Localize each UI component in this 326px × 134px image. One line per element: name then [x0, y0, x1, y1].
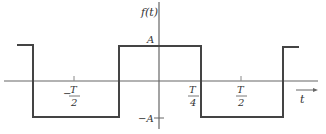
svg-text:2: 2 — [70, 97, 77, 108]
quarter-period-label: T 4 — [188, 84, 199, 108]
arrow-head-icon — [313, 88, 318, 92]
amplitude-high-label: A — [146, 34, 154, 45]
square-wave-diagram: f(t) A −A t − T 2 T 4 T 2 — [0, 0, 326, 134]
amplitude-low-label: −A — [138, 113, 154, 124]
svg-text:T: T — [189, 84, 197, 95]
svg-text:T: T — [70, 84, 78, 95]
half-period-label: T 2 — [236, 84, 247, 108]
neg-half-period-label: − T 2 — [63, 84, 80, 108]
svg-text:4: 4 — [189, 97, 196, 108]
svg-text:2: 2 — [237, 97, 244, 108]
svg-text:T: T — [237, 84, 245, 95]
y-axis-label: f(t) — [140, 6, 158, 19]
x-axis-label: t — [300, 93, 305, 106]
